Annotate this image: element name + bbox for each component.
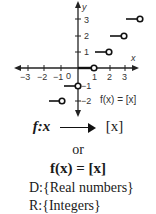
open-endpoint <box>106 49 112 55</box>
x-axis-arrow-right-icon <box>132 65 139 71</box>
y-tick-label: 1 <box>84 47 89 57</box>
x-tick-label: 1 <box>92 72 97 82</box>
mapping-domain: f:x <box>33 118 51 134</box>
x-tick-label: 0 <box>66 71 71 81</box>
step-function-graph: −3 −2 −1 0 1 2 3 3 2 1 −1 −2 x y f(x) = … <box>0 0 156 118</box>
mapping-result: [x] <box>106 118 124 134</box>
x-tick-label: −1 <box>53 72 63 82</box>
y-axis-label: y <box>81 2 87 12</box>
y-axis-arrow-down-icon <box>75 110 81 117</box>
x-axis-arrow-left-icon <box>14 65 21 71</box>
y-axis-arrow-up-icon <box>75 1 81 8</box>
open-endpoint <box>59 98 65 104</box>
or-text: or <box>0 142 156 158</box>
open-endpoint <box>121 33 127 39</box>
open-endpoint <box>91 65 97 71</box>
domain-text: D:{Real numbers} <box>29 180 134 196</box>
y-tick-label: −2 <box>81 96 91 106</box>
y-tick-label: −1 <box>81 81 91 91</box>
open-endpoint <box>75 83 81 89</box>
open-endpoint <box>137 16 143 22</box>
y-tick-label: 3 <box>84 15 89 25</box>
x-tick-label: 2 <box>107 72 112 82</box>
x-axis-label: x <box>130 53 136 63</box>
function-label: f(x) = [x] <box>100 94 137 105</box>
mapping-notation: f:x [x] <box>0 118 156 135</box>
range-text: R:{Integers} <box>29 198 101 214</box>
x-tick-label: 3 <box>122 72 127 82</box>
x-tick-label: −2 <box>37 72 47 82</box>
function-equation: f(x) = [x] <box>0 160 156 177</box>
y-tick-label: 2 <box>84 31 89 41</box>
mapping-arrow-icon <box>60 123 96 133</box>
x-tick-label: −3 <box>20 72 30 82</box>
